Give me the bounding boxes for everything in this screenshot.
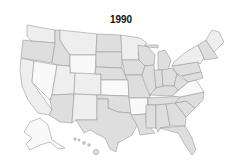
- us-map: [0, 0, 242, 168]
- state-WY[interactable]: [70, 55, 96, 75]
- state-AR[interactable]: [129, 98, 148, 115]
- state-SD[interactable]: [96, 52, 122, 68]
- state-HI[interactable]: [74, 138, 99, 155]
- state-ND[interactable]: [96, 34, 122, 52]
- state-AZ[interactable]: [49, 94, 74, 123]
- state-FL[interactable]: [160, 126, 196, 155]
- state-KS[interactable]: [101, 80, 129, 96]
- state-CO[interactable]: [74, 73, 101, 95]
- state-MS[interactable]: [146, 105, 156, 128]
- state-NM[interactable]: [72, 94, 97, 123]
- state-AK[interactable]: [24, 118, 65, 150]
- state-WA[interactable]: [27, 25, 55, 43]
